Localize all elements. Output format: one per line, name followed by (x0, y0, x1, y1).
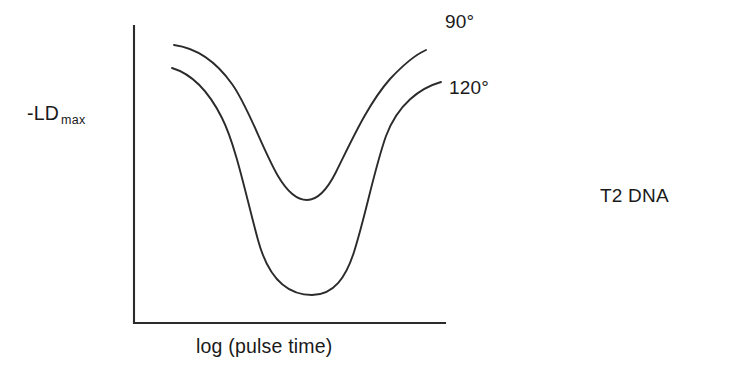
y-axis-label-subscript: max (61, 113, 86, 127)
y-axis-label: -LDmax (27, 104, 86, 126)
sample-annotation-label: T2 DNA (600, 186, 669, 205)
series-label-90-degrees: 90° (445, 12, 474, 31)
series-label-120-degrees: 120° (449, 78, 489, 97)
x-axis-label: log (pulse time) (196, 337, 333, 357)
y-axis-label-main: -LD (27, 102, 59, 124)
